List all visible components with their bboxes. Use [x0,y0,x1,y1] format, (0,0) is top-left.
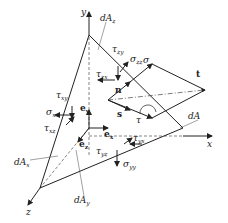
normal-vector-label: n [115,86,122,95]
dAx-label: dAx [14,158,30,168]
tau-label: τ [136,116,141,125]
tau-xy-label: τxy [56,91,68,101]
dA-label: dA [188,112,200,121]
dAz-label: dAz [100,14,115,24]
z-axis [28,188,40,205]
tau-zy-label: τzy [112,45,124,55]
tau-xz-label: τxz [44,124,56,134]
stress-tetrahedron-diagram: y x z dAz dAx dAy dA ey ex ez n s t σ τ … [0,0,228,223]
sigma-xx-label: σxx [46,108,59,118]
tau-yx-label: τyx [133,134,145,144]
dAy-label: dAy [74,196,90,206]
ez-label: ez [79,140,88,150]
tangent-vector-label: s [117,110,122,119]
ey-label: ey [80,104,89,114]
sigma-label: σ [143,56,149,65]
sigma-zz-label: σzz [130,55,142,65]
y-axis-label: y [81,8,86,17]
tau-yz-label: τyz [96,147,108,157]
tau-zx-label: τzx [96,70,108,80]
ex-label: ex [104,130,113,140]
x-axis-label: x [207,140,212,149]
z-axis-label: z [26,208,31,217]
sigma-yy-label: σyy [123,160,136,170]
traction-vector-label: t [196,70,200,79]
